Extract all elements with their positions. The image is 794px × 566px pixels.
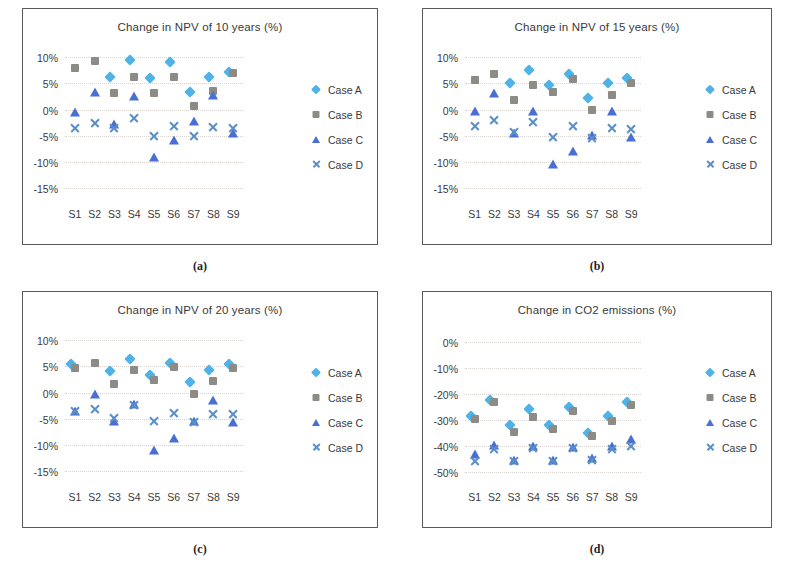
- legend-marker: [311, 392, 322, 403]
- marker-cross-icon: [70, 123, 80, 133]
- gridline: 10%: [65, 340, 243, 341]
- gridline: 0%: [65, 110, 243, 111]
- y-axis-tick-label: -10%: [33, 157, 58, 169]
- panel-c-title: Change in NPV of 20 years (%): [23, 304, 377, 316]
- x-axis-tick-label: S2: [88, 208, 101, 220]
- marker-cross-icon: [489, 115, 499, 125]
- y-axis-tick-label: -5%: [39, 414, 58, 426]
- data-point: [208, 396, 218, 405]
- panel-b-caption: (b): [400, 259, 794, 274]
- marker-cross-icon: [568, 443, 578, 453]
- data-point: [588, 106, 596, 114]
- data-point: [130, 366, 138, 374]
- x-axis-tick-label: S3: [507, 208, 520, 220]
- data-point: [90, 118, 100, 128]
- marker-square-icon: [71, 64, 79, 72]
- x-axis-tick-label: S8: [207, 208, 220, 220]
- x-axis-tick-label: S3: [108, 491, 121, 503]
- marker-triangle-icon: [90, 389, 100, 398]
- legend-marker: [311, 442, 322, 453]
- data-point: [228, 123, 238, 133]
- legend-marker: [311, 109, 322, 120]
- marker-square-icon: [150, 376, 158, 384]
- x-axis-tick-label: S4: [527, 491, 540, 503]
- data-point: [510, 83, 518, 91]
- legend-item: Case B: [705, 108, 757, 120]
- marker-triangle-icon: [189, 116, 199, 125]
- panel-a-plot: 10%5%0%-5%-10%-15%S1S2S3S4S5S6S7S8S9: [65, 49, 243, 199]
- marker-triangle-icon: [607, 106, 617, 115]
- data-point: [228, 409, 238, 419]
- marker-triangle-icon: [70, 107, 80, 116]
- marker-square-icon: [588, 432, 596, 440]
- marker-cross-icon: [587, 133, 597, 143]
- marker-diamond-icon: [312, 367, 322, 377]
- x-axis-tick-label: S7: [586, 491, 599, 503]
- x-axis-tick-label: S4: [128, 491, 141, 503]
- legend-item: Case A: [705, 366, 757, 378]
- marker-square-icon: [471, 415, 479, 423]
- data-point: [91, 359, 99, 367]
- data-point: [190, 102, 198, 110]
- marker-cross-icon: [90, 404, 100, 414]
- marker-cross-icon: [90, 118, 100, 128]
- x-axis-tick-label: S9: [625, 491, 638, 503]
- legend-label: Case D: [722, 158, 757, 170]
- marker-triangle-icon: [548, 160, 558, 169]
- marker-cross-icon: [169, 121, 179, 131]
- y-axis-tick-label: -30%: [433, 415, 458, 427]
- panel-c-caption: (c): [0, 542, 400, 557]
- data-point: [529, 413, 537, 421]
- data-point: [130, 359, 138, 367]
- legend-label: Case B: [328, 391, 362, 403]
- panel-b: Change in NPV of 15 years (%) 10%5%0%-5%…: [400, 0, 794, 283]
- data-point: [229, 69, 237, 77]
- data-point: [607, 123, 617, 133]
- gridline: -15%: [65, 471, 243, 472]
- data-point: [627, 79, 635, 87]
- marker-cross-icon: [607, 123, 617, 133]
- data-point: [490, 398, 498, 406]
- panel-a-title: Change in NPV of 10 years (%): [23, 21, 377, 33]
- x-axis-tick-label: S9: [625, 208, 638, 220]
- marker-square-icon: [529, 81, 537, 89]
- marker-cross-icon: [528, 443, 538, 453]
- marker-triangle-icon: [568, 147, 578, 156]
- legend-item: Case B: [311, 391, 363, 403]
- data-point: [548, 160, 558, 169]
- y-axis-tick-label: -10%: [433, 363, 458, 375]
- marker-cross-icon: [470, 121, 480, 131]
- y-axis-tick-label: -5%: [439, 131, 458, 143]
- y-axis-tick-label: -10%: [433, 157, 458, 169]
- data-point: [170, 62, 178, 70]
- x-axis-tick-label: S2: [488, 208, 501, 220]
- data-point: [149, 416, 159, 426]
- gridline: -50%: [465, 472, 641, 473]
- marker-square-icon: [110, 89, 118, 97]
- panel-b-legend: Case ACase BCase CCase D: [705, 83, 757, 170]
- data-point: [149, 153, 159, 162]
- legend-label: Case B: [328, 108, 362, 120]
- marker-cross-icon: [208, 409, 218, 419]
- marker-square-icon: [150, 89, 158, 97]
- x-axis-tick-label: S8: [605, 208, 618, 220]
- marker-triangle-icon: [169, 433, 179, 442]
- x-axis-tick-label: S8: [207, 491, 220, 503]
- data-point: [588, 432, 596, 440]
- gridline: -10%: [465, 368, 641, 369]
- legend-marker: [311, 417, 322, 428]
- x-axis-tick-label: S5: [148, 491, 161, 503]
- marker-square-icon: [569, 75, 577, 83]
- y-axis-tick-label: -15%: [33, 183, 58, 195]
- marker-cross-icon: [587, 455, 597, 465]
- marker-diamond-icon: [312, 84, 322, 94]
- panel-d-legend: Case ACase BCase CCase D: [705, 366, 757, 453]
- marker-triangle-icon: [312, 419, 320, 426]
- data-point: [608, 417, 616, 425]
- marker-square-icon: [549, 425, 557, 433]
- marker-cross-icon: [208, 122, 218, 132]
- legend-marker: [705, 442, 716, 453]
- legend-item: Case C: [311, 416, 363, 428]
- data-point: [110, 89, 118, 97]
- marker-cross-icon: [169, 408, 179, 418]
